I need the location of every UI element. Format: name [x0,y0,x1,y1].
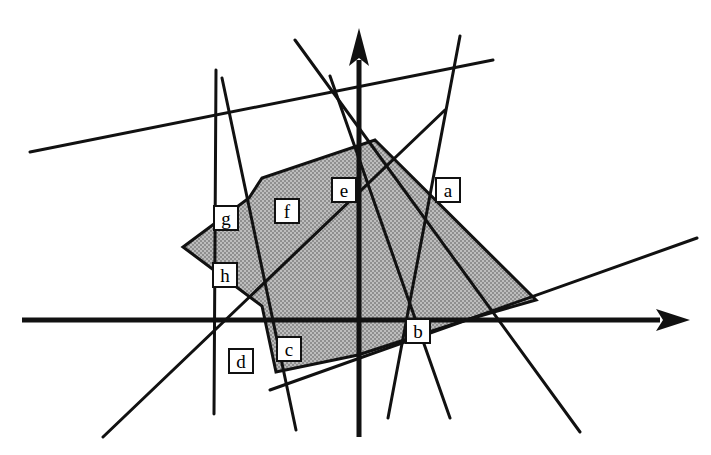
line-label-b: b [405,318,431,344]
line-label-a: a [435,177,461,203]
line-label-c: c [276,336,302,362]
diagram-canvas: abcdefgh [0,0,711,455]
line-label-d: d [228,348,254,374]
line-label-f: f [274,198,300,224]
x-axis-arrow-icon [656,309,690,331]
geometry-svg [0,0,711,455]
line-label-h: h [212,262,238,288]
line-label-e: e [331,177,357,203]
constraint-line-d [214,70,216,414]
constraint-line-g [30,60,493,152]
line-label-g: g [213,205,239,231]
